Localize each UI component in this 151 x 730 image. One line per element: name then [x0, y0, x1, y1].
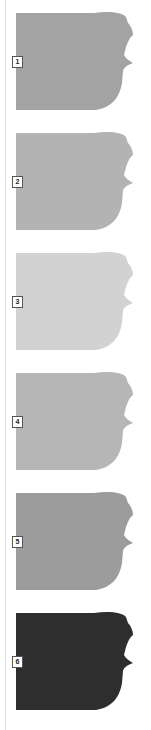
silhouette-shape [16, 491, 138, 593]
silhouette-shape [16, 251, 138, 353]
tone-swatch-1 [16, 11, 138, 113]
silhouette-shape [16, 611, 138, 713]
tone-swatch-4 [16, 371, 138, 473]
tone-swatch-5 [16, 491, 138, 593]
swatch-number-label: 2 [12, 176, 23, 188]
tone-swatch-2 [16, 131, 138, 233]
tone-swatch-6 [16, 611, 138, 713]
silhouette-shape [16, 131, 138, 233]
silhouette-shape [16, 371, 138, 473]
swatch-number-label: 5 [12, 536, 23, 548]
page-margin-rule [5, 0, 6, 730]
silhouette-shape [16, 11, 138, 113]
swatch-number-label: 4 [12, 416, 23, 428]
swatch-number-label: 3 [12, 296, 23, 308]
swatch-number-label: 6 [12, 656, 23, 668]
swatch-number-label: 1 [12, 56, 23, 68]
tone-swatch-3 [16, 251, 138, 353]
